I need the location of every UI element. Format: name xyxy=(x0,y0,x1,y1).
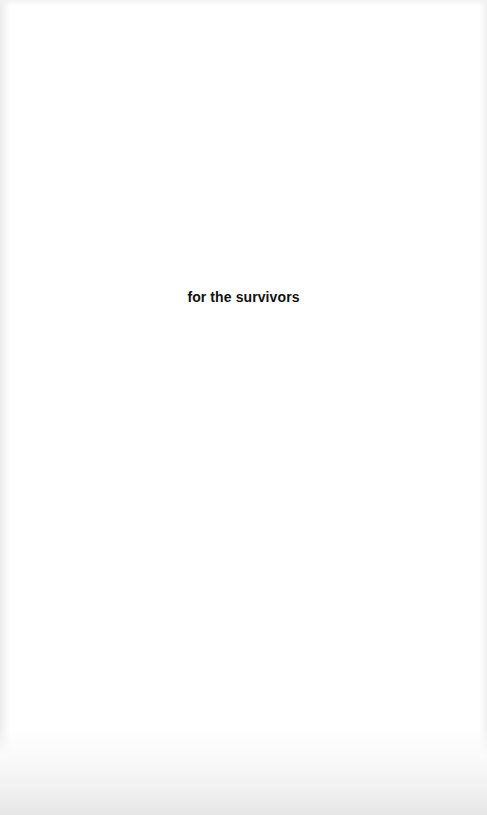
scan-edge-shading-left xyxy=(0,0,10,815)
scan-edge-shading-top xyxy=(0,0,487,6)
book-page: for the survivors xyxy=(0,0,487,815)
scan-edge-shading-bottom xyxy=(0,725,487,815)
dedication-text: for the survivors xyxy=(0,287,487,307)
scan-edge-shading-right xyxy=(479,0,487,815)
